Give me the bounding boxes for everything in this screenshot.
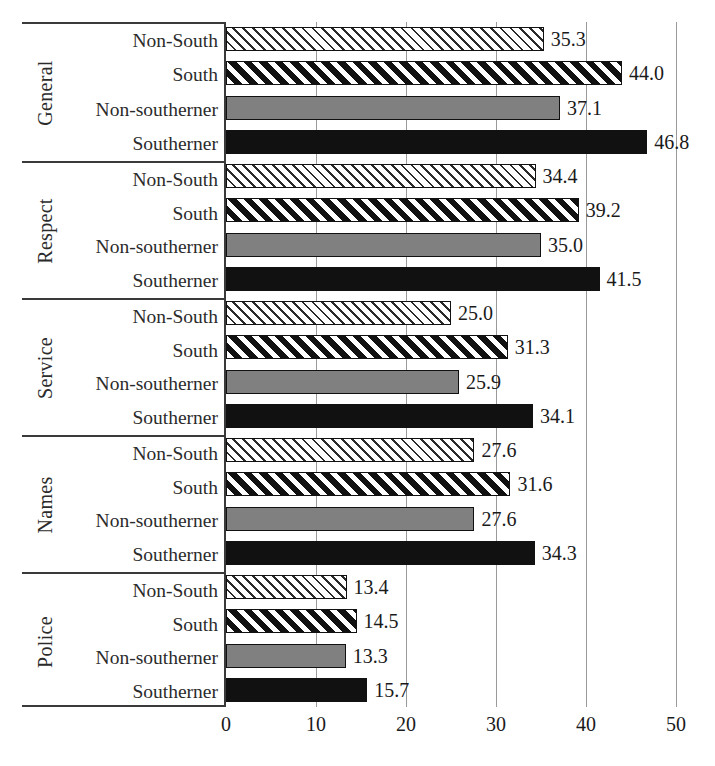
bar-row: 13.4 — [226, 570, 715, 604]
bar-value-label: 35.3 — [544, 28, 586, 51]
bar-row: 35.3 — [226, 22, 715, 56]
bar-value-label: 34.4 — [536, 165, 578, 188]
bars-layer: 35.344.037.146.834.439.235.041.525.031.3… — [226, 22, 715, 707]
series-name-label: Southerner — [68, 127, 218, 161]
series-name-label: Southerner — [68, 538, 218, 572]
x-tick-label: 30 — [486, 713, 506, 736]
bar-row: 27.6 — [226, 433, 715, 467]
group-title-cell: Service — [22, 300, 68, 435]
group-title-label: General — [34, 60, 57, 125]
group-title-cell: Police — [22, 574, 68, 709]
bar — [226, 438, 474, 462]
series-name-label: Non-southerner — [68, 93, 218, 127]
bar-row: 13.3 — [226, 639, 715, 673]
bar — [226, 233, 541, 257]
bar — [226, 198, 579, 222]
bar-row: 25.9 — [226, 365, 715, 399]
x-tick-label: 20 — [396, 713, 416, 736]
x-axis: 01020304050 — [226, 709, 676, 749]
bar-value-label: 25.9 — [459, 370, 501, 393]
series-name-label: Non-southerner — [68, 642, 218, 676]
bar — [226, 472, 510, 496]
series-name-label: Non-South — [68, 437, 218, 471]
series-name-label: South — [68, 608, 218, 642]
series-name-label: South — [68, 471, 218, 505]
series-name-label: Southerner — [68, 401, 218, 435]
bar-row: 14.5 — [226, 604, 715, 638]
group-block: ServiceNon-SouthSouthNon-southernerSouth… — [22, 298, 224, 435]
group-title-cell: General — [22, 24, 68, 161]
group-block: RespectNon-SouthSouthNon-southernerSouth… — [22, 161, 224, 298]
bar — [226, 61, 622, 85]
series-name-label: Non-South — [68, 163, 218, 197]
bar-row: 44.0 — [226, 56, 715, 90]
series-name-label: Non-southerner — [68, 231, 218, 265]
bar-value-label: 39.2 — [579, 199, 621, 222]
group-title-label: Service — [34, 336, 57, 398]
bar-value-label: 44.0 — [622, 62, 664, 85]
bar-value-label: 41.5 — [600, 267, 642, 290]
group-title-label: Respect — [34, 198, 57, 263]
bar-value-label: 34.3 — [535, 541, 577, 564]
bar — [226, 164, 536, 188]
bar — [226, 335, 508, 359]
x-tick-label: 40 — [576, 713, 596, 736]
bar — [226, 96, 560, 120]
bar — [226, 678, 367, 702]
group-title-cell: Respect — [22, 163, 68, 298]
group-block: NamesNon-SouthSouthNon-southernerSouther… — [22, 435, 224, 572]
bar-value-label: 13.4 — [347, 576, 389, 599]
bar-row: 34.1 — [226, 399, 715, 433]
bar-row: 46.8 — [226, 125, 715, 159]
bar-value-label: 27.6 — [474, 507, 516, 530]
x-tick-label: 0 — [221, 713, 231, 736]
bar-row: 25.0 — [226, 296, 715, 330]
bar-value-label: 34.1 — [533, 404, 575, 427]
bar-row: 34.3 — [226, 536, 715, 570]
bar-group: 27.631.627.634.3 — [226, 433, 715, 570]
bar-row: 41.5 — [226, 262, 715, 296]
series-name-list: Non-SouthSouthNon-southernerSoutherner — [68, 163, 224, 298]
series-name-list: Non-SouthSouthNon-southernerSoutherner — [68, 574, 224, 709]
series-name-list: Non-SouthSouthNon-southernerSoutherner — [68, 437, 224, 572]
bar — [226, 370, 459, 394]
series-name-label: South — [68, 197, 218, 231]
category-label-panel: GeneralNon-SouthSouthNon-southernerSouth… — [22, 22, 226, 707]
bar — [226, 609, 357, 633]
bar-row: 31.6 — [226, 467, 715, 501]
bar-value-label: 25.0 — [451, 302, 493, 325]
series-name-label: Non-South — [68, 24, 218, 58]
bar-value-label: 46.8 — [647, 130, 689, 153]
group-title-label: Police — [34, 616, 57, 668]
bar — [226, 301, 451, 325]
bar-value-label: 37.1 — [560, 96, 602, 119]
bar-group: 34.439.235.041.5 — [226, 159, 715, 296]
grouped-bar-chart: 35.344.037.146.834.439.235.041.525.031.3… — [0, 0, 715, 766]
bar — [226, 541, 535, 565]
series-name-label: Southerner — [68, 264, 218, 298]
bar — [226, 404, 533, 428]
bar-row: 34.4 — [226, 159, 715, 193]
series-name-label: Non-southerner — [68, 368, 218, 402]
series-name-label: Non-South — [68, 574, 218, 608]
series-name-label: South — [68, 58, 218, 92]
bar-row: 39.2 — [226, 193, 715, 227]
series-name-label: South — [68, 334, 218, 368]
bar-value-label: 27.6 — [474, 439, 516, 462]
bar-group: 35.344.037.146.8 — [226, 22, 715, 159]
x-tick-label: 10 — [306, 713, 326, 736]
series-name-list: Non-SouthSouthNon-southernerSoutherner — [68, 300, 224, 435]
bar-row: 31.3 — [226, 330, 715, 364]
x-tick-label: 50 — [666, 713, 686, 736]
bar-value-label: 35.0 — [541, 233, 583, 256]
bar-value-label: 31.6 — [510, 473, 552, 496]
bar-group: 13.414.513.315.7 — [226, 570, 715, 707]
bar — [226, 27, 544, 51]
bar-value-label: 14.5 — [357, 610, 399, 633]
series-name-label: Non-South — [68, 300, 218, 334]
bar-row: 35.0 — [226, 228, 715, 262]
bar-row: 15.7 — [226, 673, 715, 707]
bar-value-label: 31.3 — [508, 336, 550, 359]
bar — [226, 644, 346, 668]
bar — [226, 507, 474, 531]
